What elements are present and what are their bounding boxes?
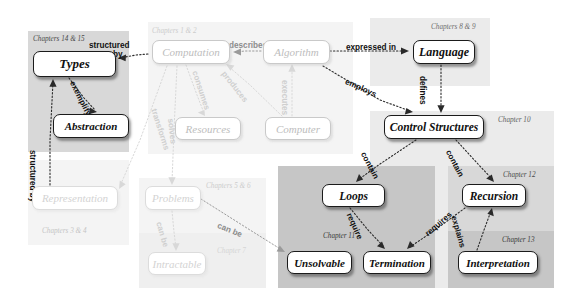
node-loops[interactable]: Loops: [322, 184, 385, 207]
concept-map-diagram: Chapters 14 & 15Chapters 3 & 4Chapters 1…: [0, 0, 564, 296]
arrow-computer-to-algorithm: [288, 64, 295, 116]
node-types[interactable]: Types: [33, 51, 116, 77]
arrow-problems-to-unsolvable: [201, 199, 285, 252]
arrow-computation-to-types: [118, 54, 148, 61]
arrow-algorithm-to-language: [330, 48, 409, 55]
node-resources[interactable]: Resources: [175, 117, 241, 140]
node-abstraction[interactable]: Abstraction: [53, 114, 129, 138]
node-termination[interactable]: Termination: [363, 251, 431, 274]
node-intractable[interactable]: Intractable: [148, 252, 206, 275]
arrow-computation-to-resources: [186, 65, 205, 116]
node-problems[interactable]: Problems: [145, 186, 201, 210]
arrow-control-to-loops: [356, 140, 416, 182]
node-recursion[interactable]: Recursion: [462, 184, 526, 207]
arrow-language-to-control: [437, 65, 444, 113]
node-language[interactable]: Language: [413, 40, 475, 64]
node-interpretation[interactable]: Interpretation: [458, 251, 538, 274]
node-computation[interactable]: Computation: [152, 40, 230, 64]
arrow-recursion-to-termination: [407, 208, 465, 249]
node-algorithm[interactable]: Algorithm: [263, 40, 330, 64]
arrow-algorithm-to-computation: [233, 49, 261, 56]
arrow-problems-to-intractable: [172, 211, 180, 251]
node-unsolvable[interactable]: Unsolvable: [287, 251, 352, 274]
node-computer[interactable]: Computer: [265, 117, 331, 140]
node-control-structures[interactable]: Control Structures: [384, 115, 484, 139]
arrow-interpretation-to-recursion: [477, 208, 494, 250]
arrow-control-to-recursion: [456, 140, 494, 182]
arrow-computer-to-computation: [226, 64, 282, 116]
arrow-algorithm-to-control: [323, 66, 413, 115]
arrow-loops-to-termination: [350, 208, 385, 249]
node-representation[interactable]: Representation: [32, 186, 118, 210]
arrow-types-to-abstraction: [69, 78, 97, 114]
